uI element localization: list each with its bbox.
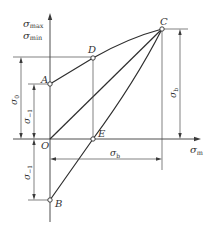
point-D-marker: [91, 56, 95, 60]
label-C: C: [160, 16, 168, 27]
y-axis-label: σmax: [23, 18, 44, 30]
svg-text:σ−1: σ−1: [22, 165, 33, 180]
dimension-sigmab-vertical: σb: [168, 29, 182, 139]
y-axis-label-min: σmin: [23, 30, 42, 42]
label-O: O: [41, 140, 49, 151]
y-axis-arrow-icon: [48, 13, 52, 20]
point-A-marker: [48, 82, 52, 86]
x-axis-arrow-icon: [194, 137, 201, 141]
upper-limit-curve-ADC: [50, 29, 162, 84]
label-E: E: [97, 128, 106, 139]
dimension-sigma-neg1-lower: σ−1: [22, 139, 36, 200]
dimension-sigmab-horizontal: σb: [50, 148, 162, 161]
svg-text:σ0: σ0: [9, 95, 20, 105]
point-C-marker: [160, 27, 164, 31]
label-A: A: [40, 74, 48, 85]
svg-text:σ−1: σ−1: [22, 109, 33, 124]
lower-limit-curve-BEC: [50, 29, 162, 200]
x-axis-label: σm: [190, 144, 203, 157]
dimension-sigma-neg1-upper: σ−1: [22, 84, 36, 139]
label-B: B: [54, 198, 62, 209]
smith-diagram: σmax σmin σm σ0 σ−1: [0, 0, 216, 235]
svg-text:σb: σb: [110, 148, 120, 159]
svg-text:σb: σb: [168, 88, 179, 98]
dimension-sigma0: σ0: [9, 57, 23, 139]
point-B-marker: [48, 198, 52, 202]
y-axis: [48, 13, 52, 222]
label-D: D: [87, 44, 96, 55]
point-E-marker: [91, 137, 95, 141]
mean-stress-line-OC: [50, 29, 162, 139]
